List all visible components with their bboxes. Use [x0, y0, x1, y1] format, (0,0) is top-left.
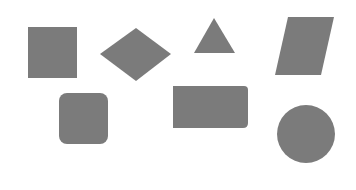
diamond-shape — [100, 28, 171, 81]
circle-shape — [277, 105, 335, 163]
parallelogram-shape — [275, 17, 334, 75]
rectangle-shape — [173, 86, 248, 128]
shapes-canvas — [0, 0, 356, 190]
rounded-square-shape — [59, 93, 108, 144]
square-shape — [28, 27, 77, 78]
triangle-shape — [194, 18, 235, 53]
